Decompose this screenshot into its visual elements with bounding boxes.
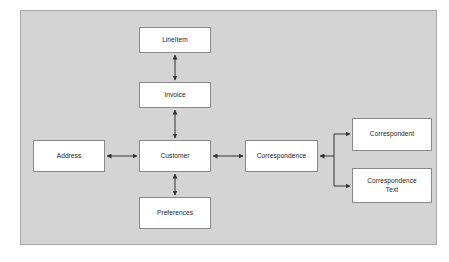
entity-label-address: Address [57,152,82,161]
diagram-root: LineItem Invoice Customer Preferences Ad… [0,0,449,262]
entity-label-correspondence: Correspondence [257,152,306,161]
entity-box-lineitem[interactable]: LineItem [139,27,211,53]
entity-label-correspondence-text: Correspondence Text [367,177,416,194]
entity-box-invoice[interactable]: Invoice [139,82,211,108]
entity-box-address[interactable]: Address [33,140,105,172]
entity-label-preferences: Preferences [157,209,193,218]
entity-label-invoice: Invoice [164,91,185,100]
entity-label-customer: Customer [161,152,190,161]
entity-box-correspondence[interactable]: Correspondence [245,140,318,172]
entity-box-preferences[interactable]: Preferences [139,197,211,229]
entity-label-lineitem: LineItem [162,36,188,45]
entity-box-customer[interactable]: Customer [139,140,211,172]
entity-box-correspondence-text[interactable]: Correspondence Text [352,168,432,203]
entity-label-correspondent: Correspondent [370,130,414,139]
entity-box-correspondent[interactable]: Correspondent [352,118,432,151]
